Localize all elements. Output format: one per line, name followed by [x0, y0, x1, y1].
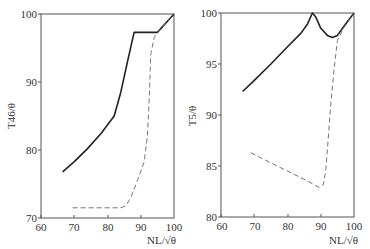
- right-ytick-95: 95: [206, 58, 218, 70]
- left-plot-frame: [41, 14, 174, 218]
- right-xtick-80: 80: [283, 220, 295, 232]
- right-xtick-100: 100: [346, 220, 363, 232]
- right-solid-line: [243, 13, 354, 92]
- left-y-ticks: 100 90 80 70: [21, 8, 42, 224]
- right-ytick-85: 85: [206, 160, 218, 172]
- right-ytick-100: 100: [201, 7, 218, 19]
- left-ytick-80: 80: [26, 144, 38, 156]
- right-xtick-70: 70: [250, 220, 262, 232]
- right-xtick-90: 90: [316, 220, 328, 232]
- right-chart: 100 95 90 85 80 60 70 80 90 100 NL/√θ T5…: [186, 7, 363, 246]
- left-xtick-60: 60: [36, 221, 48, 233]
- right-y-axis-label: T5/θ: [186, 106, 198, 127]
- right-y-ticks: 100 95 90 85 80: [201, 7, 222, 223]
- left-x-axis-label: NL/√θ: [147, 234, 176, 246]
- right-xtick-60: 60: [217, 220, 229, 232]
- left-ytick-100: 100: [21, 8, 38, 20]
- left-y-axis-label: T46/θ: [5, 103, 17, 129]
- left-xtick-80: 80: [103, 221, 115, 233]
- right-plot-frame: [221, 13, 354, 217]
- left-xtick-100: 100: [166, 221, 183, 233]
- left-solid-line: [63, 14, 174, 172]
- left-xtick-90: 90: [136, 221, 148, 233]
- left-chart: 100 90 80 70 60 70 80 90 100 NL/√θ T46/θ: [5, 8, 183, 246]
- right-x-axis-label: NL/√θ: [329, 234, 358, 246]
- charts-canvas: 100 90 80 70 60 70 80 90 100 NL/√θ T46/θ: [0, 0, 370, 249]
- left-dashed-line: [73, 14, 174, 208]
- right-ytick-90: 90: [206, 109, 218, 121]
- right-dashed-line: [251, 13, 354, 187]
- left-ytick-90: 90: [26, 76, 38, 88]
- left-xtick-70: 70: [69, 221, 81, 233]
